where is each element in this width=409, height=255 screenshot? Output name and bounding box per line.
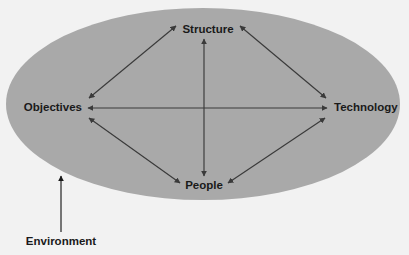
node-label-environment: Environment — [26, 235, 96, 247]
socio-technical-diagram: Structure Objectives Technology People E… — [0, 0, 409, 255]
diagram-canvas: Structure Objectives Technology People E… — [0, 0, 409, 255]
node-label-people: People — [185, 179, 223, 191]
node-label-objectives: Objectives — [24, 101, 82, 113]
node-label-technology: Technology — [334, 101, 398, 113]
node-label-structure: Structure — [182, 23, 233, 35]
